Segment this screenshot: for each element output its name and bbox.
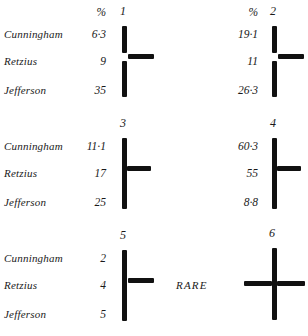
percent-header: % — [248, 6, 258, 18]
panel-3-value-retzius: 17 — [95, 167, 107, 179]
cross-vertical-bar — [272, 138, 277, 209]
panel-4-value-jefferson: 8·8 — [244, 196, 258, 208]
panel-1-value-retzius: 9 — [100, 55, 106, 67]
panel-5-cross-diagram: 5 — [112, 224, 154, 336]
figure-container: % Cunningham Retzius Jefferson 6·3 9 35 … — [0, 0, 308, 336]
panel-1-labels: % Cunningham Retzius Jefferson 6·3 9 35 — [0, 0, 112, 112]
panel-4-cross-diagram: 4 — [262, 112, 304, 224]
cross-upper-arm — [122, 26, 127, 53]
panel-1-value-cunningham: 6·3 — [92, 28, 106, 40]
row-name-cunningham: Cunningham — [4, 252, 63, 264]
row-name-retzius: Retzius — [4, 279, 37, 291]
panel-6-cross-diagram: 6 — [262, 224, 304, 336]
cross-right-arm — [128, 278, 154, 283]
cross-right-arm — [277, 281, 305, 286]
panel-4-value-retzius: 55 — [247, 167, 259, 179]
panel-3: Cunningham Retzius Jefferson 11·1 17 25 … — [0, 112, 154, 224]
row-name-retzius: Retzius — [4, 55, 37, 67]
panel-1-number: 1 — [120, 4, 126, 19]
panel-2-cross-diagram: 2 — [262, 0, 304, 112]
panel-5-value-retzius: 4 — [100, 279, 106, 291]
cross-upper-arm — [122, 250, 127, 284]
rare-label: RARE — [176, 279, 208, 291]
panel-5-labels: Cunningham Retzius Jefferson 2 4 5 — [0, 224, 112, 336]
panel-3-value-jefferson: 25 — [95, 196, 107, 208]
panel-6-number: 6 — [269, 226, 275, 241]
panel-3-number: 3 — [120, 116, 126, 131]
row-name-jefferson: Jefferson — [4, 196, 46, 208]
panel-3-cross-diagram: 3 — [112, 112, 154, 224]
cross-upper-arm — [272, 26, 277, 53]
percent-header: % — [96, 6, 106, 18]
row-name-jefferson: Jefferson — [4, 84, 46, 96]
panel-1-value-jefferson: 35 — [95, 84, 107, 96]
cross-right-arm — [128, 54, 154, 59]
panel-4-labels: 60·3 55 8·8 — [154, 112, 266, 224]
row-name-cunningham: Cunningham — [4, 140, 63, 152]
panel-2-value-jefferson: 26·3 — [238, 84, 258, 96]
panel-3-labels: Cunningham Retzius Jefferson 11·1 17 25 — [0, 112, 112, 224]
panel-2-number: 2 — [270, 4, 276, 19]
panel-5-number: 5 — [120, 228, 126, 243]
cross-lower-arm — [122, 61, 127, 97]
cross-lower-arm — [122, 282, 127, 321]
cross-right-arm — [278, 54, 304, 59]
panel-4-value-cunningham: 60·3 — [238, 140, 258, 152]
panel-5-value-cunningham: 2 — [100, 252, 106, 264]
panel-2-value-retzius: 11 — [247, 55, 258, 67]
panel-3-value-cunningham: 11·1 — [87, 140, 106, 152]
panel-5-value-jefferson: 5 — [100, 308, 106, 320]
panel-1-cross-diagram: 1 — [112, 0, 154, 112]
panel-2-value-cunningham: 19·1 — [238, 28, 258, 40]
panel-5: Cunningham Retzius Jefferson 2 4 5 5 — [0, 224, 154, 336]
panel-2: % 19·1 11 26·3 2 — [154, 0, 308, 112]
row-name-cunningham: Cunningham — [4, 28, 63, 40]
cross-vertical-bar — [122, 138, 127, 209]
cross-right-arm — [127, 166, 151, 171]
cross-lower-arm — [272, 61, 277, 97]
panel-1: % Cunningham Retzius Jefferson 6·3 9 35 … — [0, 0, 154, 112]
panel-6-labels: RARE — [154, 224, 266, 336]
panel-4: 60·3 55 8·8 4 — [154, 112, 308, 224]
row-name-retzius: Retzius — [4, 167, 37, 179]
cross-right-arm — [277, 166, 301, 171]
panel-2-labels: % 19·1 11 26·3 — [154, 0, 266, 112]
panel-4-number: 4 — [270, 116, 276, 131]
panel-6: RARE 6 — [154, 224, 308, 336]
cross-left-arm — [244, 281, 272, 286]
row-name-jefferson: Jefferson — [4, 308, 46, 320]
